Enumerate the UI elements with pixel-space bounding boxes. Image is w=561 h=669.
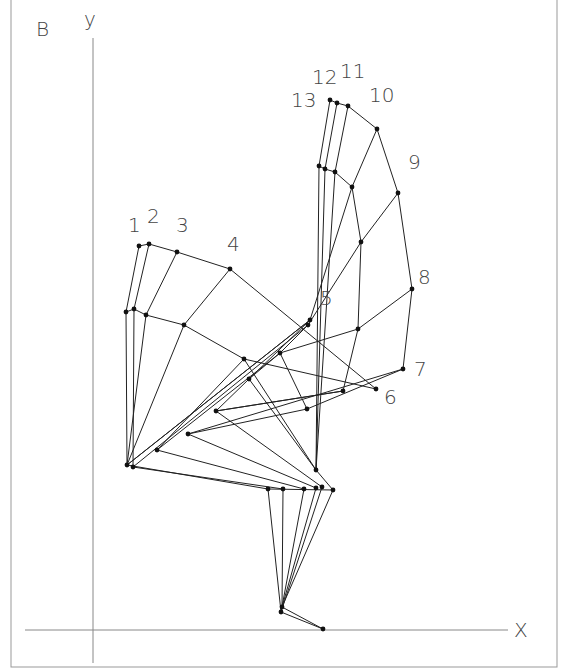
joint-point — [132, 307, 137, 312]
pose-label: 8 — [418, 265, 431, 289]
joint-point — [410, 287, 415, 292]
motion-trajectory-diagram: B y X 12345678910111213 — [0, 0, 561, 669]
x-axis-label: X — [514, 618, 528, 642]
joint-point — [278, 351, 283, 356]
joint-point — [279, 610, 284, 615]
segment-line — [188, 369, 403, 434]
pose-label: 2 — [147, 204, 160, 228]
joint-point — [144, 313, 149, 318]
segment-line — [127, 252, 177, 465]
joint-point — [350, 185, 355, 190]
segment-line — [127, 269, 230, 465]
joint-point — [302, 487, 307, 492]
joint-point — [359, 240, 364, 245]
segment-line — [139, 244, 376, 389]
joint-point — [228, 267, 233, 272]
joint-point — [247, 377, 252, 382]
stick-figure-segments — [126, 100, 412, 629]
joint-point — [125, 463, 130, 468]
joint-point — [317, 164, 322, 169]
joint-point — [186, 432, 191, 437]
joint-point — [280, 605, 285, 610]
y-axis-label: y — [84, 7, 96, 31]
joint-point — [335, 101, 340, 106]
joint-point — [320, 485, 325, 490]
joint-point — [341, 389, 346, 394]
segment-line — [127, 465, 281, 612]
joint-point — [314, 486, 319, 491]
segment-line — [319, 166, 361, 391]
joint-point — [281, 487, 286, 492]
panel-label: B — [36, 17, 49, 41]
pose-label: 5 — [320, 286, 333, 310]
segment-line — [330, 100, 412, 369]
pose-number-labels: 12345678910111213 — [128, 59, 431, 409]
pose-label: 12 — [312, 65, 337, 89]
pose-label: 3 — [176, 213, 189, 237]
joint-point — [175, 250, 180, 255]
pose-label: 11 — [340, 59, 365, 83]
joint-point — [124, 310, 129, 315]
pose-label: 1 — [128, 213, 141, 237]
joint-point — [401, 367, 406, 372]
segment-line — [157, 359, 244, 450]
joint-point — [131, 465, 136, 470]
joint-point — [323, 167, 328, 172]
joint-point — [333, 170, 338, 175]
segment-line — [281, 612, 323, 629]
joint-point — [266, 487, 271, 492]
pose-label: 10 — [369, 83, 394, 107]
joint-point — [305, 407, 310, 412]
joint-point — [346, 104, 351, 109]
segment-line — [268, 489, 333, 490]
joint-point — [155, 448, 160, 453]
segment-line — [244, 359, 376, 389]
joint-point — [356, 327, 361, 332]
joint-point — [396, 191, 401, 196]
joint-point — [314, 468, 319, 473]
joint-point — [375, 127, 380, 132]
pose-label: 6 — [384, 385, 397, 409]
pose-label: 13 — [291, 88, 316, 112]
segment-line — [216, 391, 343, 411]
joint-point — [331, 488, 336, 493]
joint-point — [308, 318, 313, 323]
segment-line — [216, 411, 322, 612]
pose-label: 4 — [227, 232, 240, 256]
pose-label: 7 — [414, 357, 427, 381]
joint-point — [242, 357, 247, 362]
segment-line — [126, 309, 316, 470]
joint-point — [328, 98, 333, 103]
joint-point — [137, 244, 142, 249]
segment-line — [126, 246, 139, 465]
joint-point — [182, 323, 187, 328]
joint-point — [147, 242, 152, 247]
joint-point — [374, 387, 379, 392]
joint-point — [306, 323, 311, 328]
pose-label: 9 — [408, 150, 421, 174]
segment-line — [188, 434, 316, 607]
segment-line — [127, 320, 310, 465]
segment-line — [282, 607, 323, 629]
joint-point — [321, 627, 326, 632]
joint-point — [214, 409, 219, 414]
